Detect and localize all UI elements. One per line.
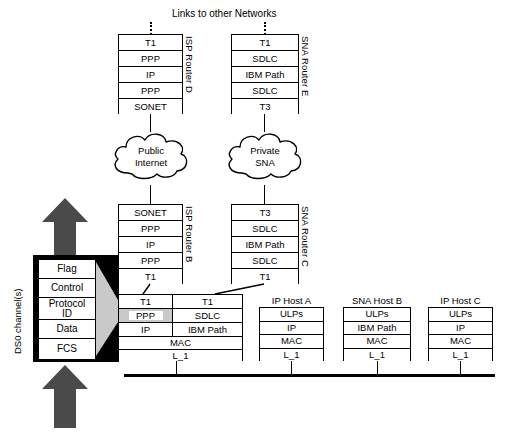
bus-drop-ip-host-a — [291, 361, 292, 374]
layer-cell: PPP — [119, 83, 182, 99]
pdu-field-data: Data — [39, 320, 95, 339]
bus-drop-gateway — [176, 361, 177, 374]
host-caption-sna-host-b: SNA Host B — [343, 295, 411, 306]
layer-cell: PPP — [119, 253, 182, 269]
layer-cell: MAC — [344, 335, 410, 349]
layer-cell: T1 — [119, 295, 173, 308]
stack-sna-router-c[interactable]: T3 SDLC IBM Path SDLC T1 — [231, 204, 299, 284]
layer-cell: IP — [429, 322, 492, 336]
bus-drop-ip-host-c — [460, 361, 461, 374]
host-caption-ip-host-c: IP Host C — [428, 295, 493, 306]
link-router-c-to-gateway — [215, 284, 264, 294]
cloud-label-line2: SNA — [255, 157, 275, 169]
layer-cell: SDLC — [232, 253, 298, 269]
layer-cell: IBM Path — [173, 323, 242, 336]
host-caption-ip-host-a: IP Host A — [259, 295, 324, 306]
layer-cell: ULPs — [260, 308, 323, 322]
cloud-label-line2: Internet — [135, 157, 167, 169]
layer-cell: IP — [119, 237, 182, 253]
layer-cell: SDLC — [232, 221, 298, 237]
layer-cell: SDLC — [232, 83, 298, 99]
pdu-field-stack[interactable]: Flag Control Protocol ID Data FCS — [38, 259, 96, 358]
pdu-field-fcs: FCS — [39, 339, 95, 359]
layer-cell-highlighted: PPP — [119, 309, 173, 322]
layer-cell: L_1 — [119, 350, 242, 362]
layer-cell: SONET — [119, 205, 182, 221]
layer-cell: SONET — [119, 99, 182, 115]
layer-cell: T1 — [232, 269, 298, 285]
layer-cell: IP — [119, 67, 182, 83]
gateway-row-3: IP IBM Path — [119, 323, 242, 337]
layer-cell: T1 — [119, 35, 182, 51]
layer-cell: MAC — [119, 337, 242, 350]
link-router-b-to-gateway — [143, 284, 150, 294]
ds0-arrow-up-bottom — [42, 365, 88, 428]
cloud-label: Private SNA — [222, 128, 308, 186]
layer-cell: PPP — [119, 51, 182, 67]
pdu-field-protocol-id-line1: Protocol — [49, 299, 86, 309]
pdu-field-flag: Flag — [39, 260, 95, 279]
stack-isp-router-b[interactable]: SONET PPP IP PPP T1 — [118, 204, 183, 284]
stack-isp-router-d[interactable]: T1 PPP IP PPP SONET — [118, 34, 183, 114]
layer-cell: T1 — [119, 269, 182, 285]
pdu-field-protocol-id-line2: ID — [62, 309, 72, 319]
links-to-other-networks-label: Links to other Networks — [172, 8, 277, 19]
layer-cell: IBM Path — [344, 322, 410, 336]
gateway-row-1: T1 T1 — [119, 295, 242, 309]
layer-cell: IP — [260, 322, 323, 336]
router-c-side-label: SNA Router C — [300, 206, 311, 267]
layer-cell: MAC — [260, 335, 323, 349]
cloud-label-line1: Public — [138, 145, 164, 157]
cloud-public-internet[interactable]: Public Internet — [108, 128, 194, 186]
ds0-channels-label: DS0 channel(s) — [12, 262, 23, 354]
layer-cell: L_1 — [260, 349, 323, 363]
layer-cell: L_1 — [344, 349, 410, 363]
layer-cell: PPP — [119, 221, 182, 237]
router-b-side-label: ISP Router B — [184, 206, 195, 262]
stack-sna-router-e[interactable]: T1 SDLC IBM Path SDLC T3 — [231, 34, 299, 114]
network-diagram-canvas: Links to other Networks T1 PPP IP PPP SO… — [0, 0, 509, 437]
bus-drop-sna-host-b — [377, 361, 378, 374]
gateway-row-2: PPP SDLC — [119, 309, 242, 323]
layer-cell: SDLC — [232, 51, 298, 67]
layer-cell: T3 — [232, 205, 298, 221]
pdu-field-protocol-id: Protocol ID — [39, 298, 95, 320]
layer-cell: L_1 — [429, 349, 492, 363]
stack-gateway-node[interactable]: T1 T1 PPP SDLC IP IBM Path MAC L_1 — [118, 294, 243, 361]
cloud-label: Public Internet — [108, 128, 194, 186]
layer-cell: ULPs — [429, 308, 492, 322]
cloud-label-line1: Private — [250, 145, 280, 157]
layer-cell: IBM Path — [232, 67, 298, 83]
layer-cell: SDLC — [173, 309, 242, 322]
layer-cell: T1 — [173, 295, 242, 308]
link-sna-cloud-to-router-c — [264, 185, 265, 204]
layer-cell-text: PPP — [129, 311, 163, 321]
stack-ip-host-c[interactable]: ULPs IP MAC L_1 — [428, 307, 493, 361]
layer-cell: ULPs — [344, 308, 410, 322]
pdu-field-control: Control — [39, 279, 95, 298]
router-d-side-label: ISP Router D — [184, 36, 195, 93]
link-internet-cloud-to-router-b — [150, 185, 151, 204]
ds0-arrow-up-top — [42, 198, 88, 255]
router-e-side-label: SNA Router E — [300, 36, 311, 96]
lan-bus-line — [124, 374, 495, 377]
layer-cell: T1 — [232, 35, 298, 51]
stack-sna-host-b[interactable]: ULPs IBM Path MAC L_1 — [343, 307, 411, 361]
layer-cell: MAC — [429, 335, 492, 349]
layer-cell: IP — [119, 323, 173, 336]
cloud-private-sna[interactable]: Private SNA — [222, 128, 308, 186]
layer-cell: T3 — [232, 99, 298, 115]
stack-ip-host-a[interactable]: ULPs IP MAC L_1 — [259, 307, 324, 361]
layer-cell: IBM Path — [232, 237, 298, 253]
